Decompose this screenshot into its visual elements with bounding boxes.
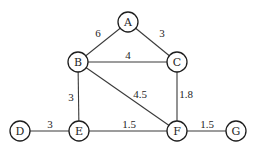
- edge-weight-b-c: 4: [125, 49, 131, 61]
- weighted-graph: 63434.51.831.51.5 ABCDEFG: [0, 0, 257, 153]
- node-label: A: [123, 16, 133, 29]
- edge-weights-layer: 63434.51.831.51.5: [47, 27, 214, 130]
- edge-weight-e-f: 1.5: [122, 118, 136, 130]
- node-b: B: [68, 52, 88, 72]
- edge-weight-b-f: 4.5: [133, 88, 147, 100]
- edge-weight-b-e: 3: [68, 91, 74, 103]
- node-label: F: [173, 125, 181, 138]
- node-f: F: [167, 121, 187, 141]
- node-c: C: [167, 52, 187, 72]
- edge-weight-a-b: 6: [95, 27, 101, 39]
- edge-weight-c-f: 1.8: [179, 88, 193, 100]
- node-label: B: [74, 56, 82, 69]
- node-g: G: [226, 121, 246, 141]
- node-label: E: [75, 125, 83, 138]
- edge-weight-f-g: 1.5: [200, 118, 214, 130]
- node-label: G: [232, 125, 241, 138]
- edge-weight-a-c: 3: [159, 27, 165, 39]
- node-a: A: [118, 12, 138, 32]
- node-label: D: [16, 125, 25, 138]
- node-d: D: [10, 121, 30, 141]
- node-e: E: [69, 121, 89, 141]
- edges-layer: [20, 22, 236, 131]
- node-label: C: [173, 56, 181, 69]
- edge-weight-d-e: 3: [47, 118, 53, 130]
